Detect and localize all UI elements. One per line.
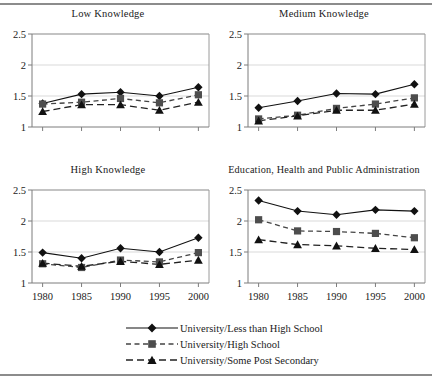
svg-text:1985: 1985 — [287, 291, 308, 302]
svg-text:2: 2 — [237, 60, 242, 71]
legend-key-diamond-icon — [124, 321, 180, 335]
plot-svg: 11.522.519801985199019952000 — [216, 180, 432, 318]
legend-label: University/Some Post Secondary — [180, 355, 319, 366]
svg-text:1980: 1980 — [32, 291, 53, 302]
svg-text:2.5: 2.5 — [229, 185, 242, 196]
legend-item: University/High School — [124, 336, 432, 352]
legend-label: University/Less than High School — [180, 323, 323, 334]
svg-text:1: 1 — [237, 122, 242, 133]
svg-text:1995: 1995 — [365, 291, 386, 302]
svg-text:1: 1 — [237, 278, 242, 289]
svg-text:1.5: 1.5 — [229, 91, 242, 102]
legend-item: University/Some Post Secondary — [124, 352, 432, 368]
svg-text:1.5: 1.5 — [13, 91, 26, 102]
legend-item: University/Less than High School — [124, 320, 432, 336]
svg-text:1: 1 — [21, 278, 26, 289]
svg-text:1980: 1980 — [248, 291, 269, 302]
plot-area: 11.522.519801985199019952000 — [216, 180, 432, 318]
svg-text:2000: 2000 — [404, 291, 425, 302]
svg-text:2.5: 2.5 — [229, 29, 242, 40]
panel-medium-knowledge: Medium Knowledge 11.522.5 — [216, 6, 432, 162]
svg-text:2: 2 — [21, 216, 26, 227]
panel-title: Education, Health and Public Administrat… — [216, 164, 432, 175]
svg-text:1995: 1995 — [149, 291, 170, 302]
top-rule — [0, 3, 432, 5]
svg-text:1.5: 1.5 — [13, 247, 26, 258]
plot-area: 11.522.519801985199019952000 — [0, 180, 216, 318]
svg-text:1: 1 — [21, 122, 26, 133]
svg-text:1990: 1990 — [110, 291, 131, 302]
panel-high-knowledge: High Knowledge 11.522.519801985199019952… — [0, 162, 216, 318]
svg-text:2: 2 — [237, 216, 242, 227]
bottom-rule — [0, 374, 432, 376]
panel-title: Low Knowledge — [0, 8, 216, 19]
legend-key-square-icon — [124, 337, 180, 351]
plot-svg: 11.522.519801985199019952000 — [0, 180, 216, 318]
svg-text:1990: 1990 — [326, 291, 347, 302]
svg-text:1.5: 1.5 — [229, 247, 242, 258]
panel-low-knowledge: Low Knowledge 11.522.5 — [0, 6, 216, 162]
chart-panel-grid: Low Knowledge 11.522.5 Medium Knowledge … — [0, 6, 432, 318]
panel-title: Medium Knowledge — [216, 8, 432, 19]
panel-education-health-public-administration: Education, Health and Public Administrat… — [216, 162, 432, 318]
plot-area: 11.522.5 — [0, 24, 216, 162]
svg-text:2: 2 — [21, 60, 26, 71]
plot-svg: 11.522.5 — [0, 24, 216, 162]
plot-svg: 11.522.5 — [216, 24, 432, 162]
legend-key-triangle-icon — [124, 353, 180, 367]
svg-text:2.5: 2.5 — [13, 185, 26, 196]
plot-area: 11.522.5 — [216, 24, 432, 162]
svg-text:1985: 1985 — [71, 291, 92, 302]
svg-text:2.5: 2.5 — [13, 29, 26, 40]
panel-title: High Knowledge — [0, 164, 216, 175]
chart-legend: University/Less than High School Univers… — [0, 320, 432, 372]
legend-label: University/High School — [180, 339, 280, 350]
svg-text:2000: 2000 — [188, 291, 209, 302]
